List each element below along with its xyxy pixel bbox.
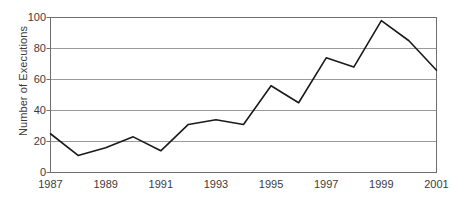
plot-area <box>0 0 458 207</box>
axis-tick-marks <box>47 18 51 173</box>
plot-frame <box>51 18 437 173</box>
line-chart: Number of Executions 020406080100 198719… <box>0 0 458 207</box>
gridlines <box>51 49 437 142</box>
data-series-line <box>51 21 437 156</box>
